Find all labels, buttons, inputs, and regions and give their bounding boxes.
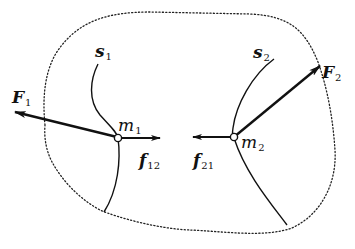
label-f21: f21 bbox=[193, 152, 214, 171]
label-m2: m2 bbox=[241, 134, 265, 153]
force-F1-arrow bbox=[15, 112, 117, 137]
label-F2: F2 bbox=[322, 64, 341, 83]
label-F1: F1 bbox=[12, 89, 31, 108]
diagram-canvas bbox=[0, 0, 355, 249]
system-boundary bbox=[44, 12, 335, 233]
particle-m2 bbox=[230, 133, 237, 140]
label-s2: s2 bbox=[253, 44, 270, 63]
label-m1: m1 bbox=[118, 117, 142, 136]
label-f12: f12 bbox=[139, 152, 160, 171]
label-s1: s1 bbox=[95, 43, 112, 62]
force-F2-arrow bbox=[234, 66, 320, 137]
